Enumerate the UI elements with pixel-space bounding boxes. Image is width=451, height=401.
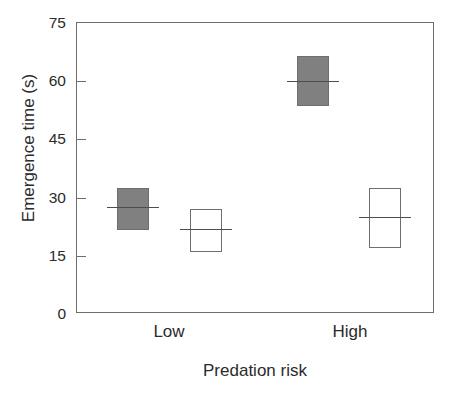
y-tick-label-0: 0 xyxy=(20,306,66,322)
median-high-open xyxy=(359,217,411,218)
y-axis-title: Emergence time (s) xyxy=(19,23,39,273)
plot-area xyxy=(76,22,434,313)
x-tick-label-low: Low xyxy=(109,322,229,342)
x-tick-label-high: High xyxy=(290,322,410,342)
box-low-filled xyxy=(117,188,149,231)
y-tick-mark-60 xyxy=(77,81,86,82)
y-tick-mark-45 xyxy=(77,139,86,140)
median-low-open xyxy=(180,229,232,230)
x-axis-title: Predation risk xyxy=(76,361,434,381)
figure-canvas: Emergence time (s) 75 60 45 30 15 0 Low … xyxy=(0,0,451,401)
box-low-open xyxy=(190,209,222,252)
y-tick-mark-30 xyxy=(77,198,86,199)
median-low-filled xyxy=(107,207,159,208)
y-tick-mark-15 xyxy=(77,256,86,257)
median-high-filled xyxy=(287,81,339,82)
